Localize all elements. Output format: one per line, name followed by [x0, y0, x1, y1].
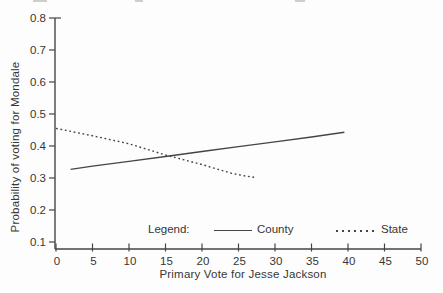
svg-text:5: 5 — [90, 255, 96, 267]
svg-text:0.2: 0.2 — [30, 204, 46, 216]
legend-state-swatch — [336, 230, 378, 232]
legend-county-swatch — [214, 230, 252, 231]
legend-state-label: State — [381, 223, 408, 235]
svg-text:0.7: 0.7 — [30, 44, 46, 56]
svg-text:0.1: 0.1 — [30, 236, 46, 248]
svg-text:0.8: 0.8 — [30, 12, 46, 24]
svg-text:0.6: 0.6 — [30, 76, 46, 88]
svg-text:25: 25 — [233, 255, 246, 267]
svg-text:0.3: 0.3 — [30, 172, 46, 184]
svg-text:50: 50 — [416, 255, 429, 267]
legend-title: Legend: — [148, 223, 190, 235]
svg-text:0.4: 0.4 — [30, 140, 47, 152]
svg-text:35: 35 — [306, 255, 319, 267]
svg-text:20: 20 — [197, 255, 210, 267]
chart-figure: 0.10.20.30.40.50.60.70.80510152025303540… — [0, 0, 443, 293]
svg-text:0.5: 0.5 — [30, 108, 46, 120]
svg-text:30: 30 — [270, 255, 283, 267]
svg-text:10: 10 — [124, 255, 137, 267]
y-axis-title: Probability of voting for Mondale — [9, 62, 21, 233]
x-axis-title: Primary Vote for Jesse Jackson — [159, 268, 326, 280]
svg-text:45: 45 — [379, 255, 392, 267]
chart-svg: 0.10.20.30.40.50.60.70.80510152025303540… — [0, 0, 443, 293]
svg-text:40: 40 — [343, 255, 356, 267]
legend-county-label: County — [257, 223, 293, 235]
svg-text:0: 0 — [54, 255, 60, 267]
svg-text:15: 15 — [160, 255, 173, 267]
